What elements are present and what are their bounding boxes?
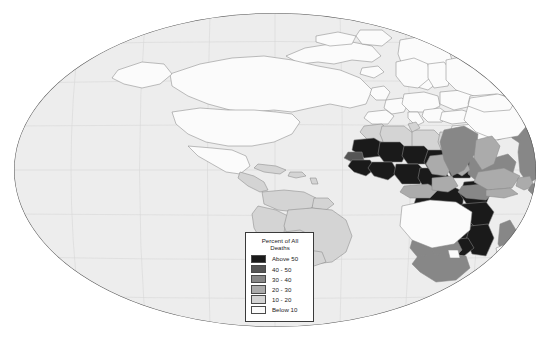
legend-item-40-50: 40 - 50 xyxy=(251,264,309,274)
legend-swatch-10-20 xyxy=(251,295,266,303)
legend-item-30-40: 30 - 40 xyxy=(251,274,309,284)
legend-title: Percent of All Deaths xyxy=(251,237,309,252)
legend-label-30-40: 30 - 40 xyxy=(272,276,291,283)
legend-label-40-50: 40 - 50 xyxy=(272,266,291,273)
legend-title-line-1: Percent of All xyxy=(251,237,309,244)
legend-item-10-20: 10 - 20 xyxy=(251,295,309,305)
country-sri-lanka xyxy=(536,178,544,188)
legend-swatch-20-30 xyxy=(251,285,266,293)
country-siberia-east xyxy=(500,46,550,58)
country-tasmania xyxy=(448,250,460,258)
legend-item-above-50: Above 50 xyxy=(251,254,309,264)
country-india xyxy=(518,128,550,184)
world-choropleth-figure: Percent of All Deaths Above 50 40 - 50 3… xyxy=(0,0,550,339)
legend-swatch-above-50 xyxy=(251,255,266,263)
legend-label-below-10: Below 10 xyxy=(272,306,297,313)
country-madagascar xyxy=(498,220,516,254)
legend-item-20-30: 20 - 30 xyxy=(251,284,309,294)
map-legend: Percent of All Deaths Above 50 40 - 50 3… xyxy=(245,232,314,322)
legend-entries: Above 50 40 - 50 30 - 40 20 - 30 10 - 20… xyxy=(251,254,309,315)
legend-label-10-20: 10 - 20 xyxy=(272,296,291,303)
legend-title-line-2: Deaths xyxy=(251,244,309,251)
legend-swatch-40-50 xyxy=(251,265,266,273)
legend-label-above-50: Above 50 xyxy=(272,255,298,262)
legend-swatch-below-10 xyxy=(251,306,266,314)
legend-label-20-30: 20 - 30 xyxy=(272,286,291,293)
legend-swatch-30-40 xyxy=(251,275,266,283)
legend-item-below-10: Below 10 xyxy=(251,305,309,315)
